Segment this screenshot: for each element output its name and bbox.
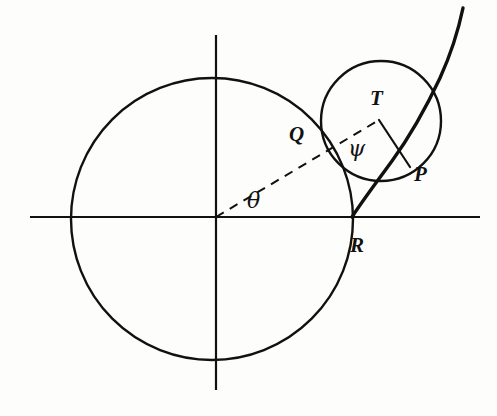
angle-label-psi: ψ (348, 138, 365, 160)
geometry-figure: T Q P R θ ψ (0, 0, 497, 416)
point-label-P: P (414, 164, 427, 185)
point-label-Q: Q (289, 124, 304, 145)
cycloid-curve (352, 8, 463, 217)
point-label-T: T (370, 88, 383, 109)
angle-label-theta: θ (247, 190, 260, 212)
large-circle (71, 78, 353, 360)
point-label-R: R (350, 235, 364, 256)
